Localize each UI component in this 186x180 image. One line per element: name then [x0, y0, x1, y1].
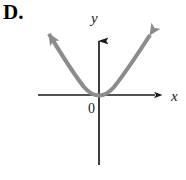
y-axis-label: y	[89, 10, 98, 26]
multiple-choice-graph-figure: D. y x 0	[0, 0, 186, 180]
coordinate-plane-plot: y x 0	[0, 0, 186, 180]
x-axis-label: x	[170, 88, 178, 104]
origin-label: 0	[88, 101, 95, 116]
